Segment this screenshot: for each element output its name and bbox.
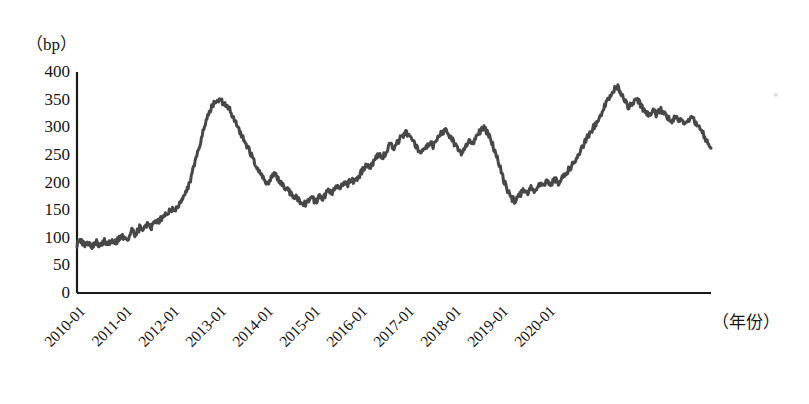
chart-figure: （bp） 400350300250200150100500 2010-01201… <box>0 0 809 404</box>
x-axis-unit-label: （年份） <box>712 308 780 333</box>
scan-artifact-speck: ✶ <box>772 92 779 99</box>
x-axis-tick-labels: 2010-012011-012012-012013-012014-012015-… <box>0 0 809 404</box>
